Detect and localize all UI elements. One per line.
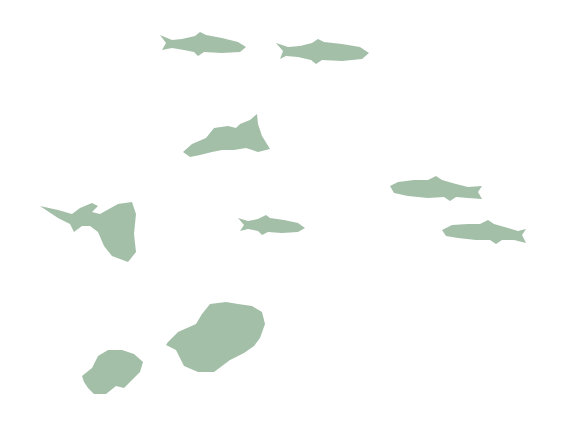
fish-slender-1 <box>160 32 246 56</box>
fish-guppy-1 <box>183 114 270 157</box>
fish-fancy-large <box>166 302 265 372</box>
fish-slender-2 <box>276 39 369 64</box>
fish-illustration <box>0 0 564 421</box>
fish-fancy-small <box>82 350 143 394</box>
fish-guppy-2 <box>40 202 136 262</box>
fish-slender-3 <box>238 215 305 235</box>
fish-slender-5 <box>442 220 526 244</box>
fish-slender-4 <box>390 176 482 201</box>
